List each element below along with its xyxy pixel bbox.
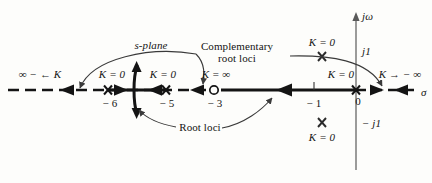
tick-label-zero: 0	[355, 95, 361, 107]
tick-label-minus-five: − 5	[160, 97, 175, 109]
k-infinity-label-zero-minus-three: K = ∞	[202, 68, 231, 80]
zero-marker-minus-three	[210, 86, 218, 94]
complementary-root-loci-label-line2: root loci	[218, 52, 256, 64]
tick-label-minus-three: − 3	[208, 97, 223, 109]
k-toward-minus-infinity-left-label: ∞ − ← K	[19, 68, 62, 80]
tick-label-minus-one: − 1	[307, 97, 322, 109]
root-locus-figure: s-plane Complementary root loci Root loc…	[0, 0, 432, 183]
imaginary-axis-label: jω	[362, 10, 373, 22]
complementary-locus-left-arrowhead	[60, 84, 74, 95]
tick-label-minus-six: − 6	[103, 97, 118, 109]
real-axis-label: σ	[421, 86, 427, 98]
k-zero-label-pole-minus-six: K = 0	[99, 68, 125, 80]
root-loci-label-leader-left	[139, 110, 176, 127]
tick-label-j-one: j1	[362, 45, 371, 57]
k-zero-label-pole-minus-five: K = 0	[150, 68, 176, 80]
complementary-locus-right-dashed	[356, 84, 420, 95]
root-locus-solid-segment	[221, 84, 356, 97]
root-locus-segment-between-poles	[108, 84, 166, 96]
root-loci-label-leader-right	[222, 98, 272, 128]
k-zero-label-lower-complex-pole: K = 0	[309, 131, 335, 143]
complementary-root-loci-label: Complementary root loci	[201, 40, 273, 65]
complementary-locus-left-arrowhead-2	[190, 84, 204, 95]
k-zero-label-origin: K = 0	[328, 68, 354, 80]
s-plane-label: s-plane	[134, 39, 167, 51]
tick-label-minus-j-one: − j1	[362, 117, 381, 129]
pole-marker-lower-complex	[318, 118, 326, 127]
root-loci-label: Root loci	[179, 121, 221, 133]
complementary-root-loci-label-line1: Complementary	[201, 40, 273, 52]
k-toward-minus-infinity-right-label: K → − ∞	[379, 68, 422, 80]
root-locus-plot-canvas	[0, 0, 432, 183]
k-zero-label-upper-complex-pole: K = 0	[309, 36, 335, 48]
